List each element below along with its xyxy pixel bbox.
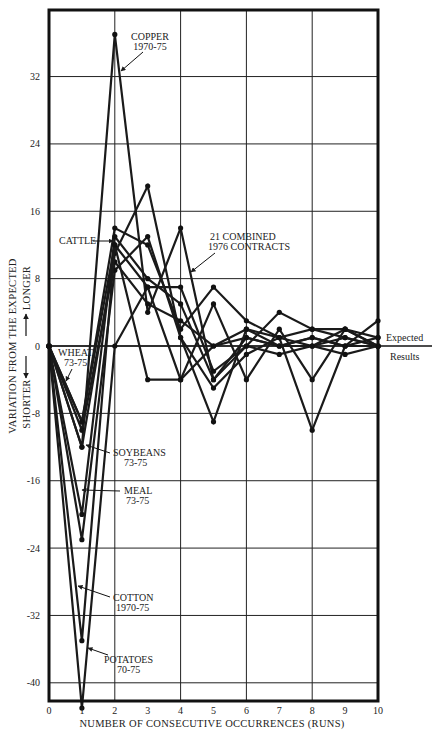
data-point — [277, 327, 282, 332]
data-point — [310, 428, 315, 433]
data-point — [178, 335, 183, 340]
data-point — [145, 234, 150, 239]
data-point — [211, 284, 216, 289]
data-point — [79, 638, 84, 643]
data-point — [310, 335, 315, 340]
annotation-cattle: CATTLE — [59, 235, 113, 246]
y-axis-direction-label: SHORTER LONGER — [21, 266, 32, 429]
data-point — [277, 352, 282, 357]
data-point — [79, 537, 84, 542]
data-point — [211, 419, 216, 424]
y-tick-label: -16 — [27, 475, 40, 486]
x-axis-label: NUMBER OF CONSECUTIVE OCCURRENCES (RUNS) — [79, 718, 344, 730]
data-series — [46, 32, 380, 711]
data-point — [145, 183, 150, 188]
data-point — [112, 226, 117, 231]
x-tick-label: 0 — [47, 705, 52, 716]
y-tick-label: 32 — [30, 71, 40, 82]
data-point — [112, 32, 117, 37]
data-point — [145, 377, 150, 382]
x-tick-label: 6 — [244, 705, 249, 716]
x-tick-label: 8 — [310, 705, 315, 716]
y-tick-label: 0 — [35, 341, 40, 352]
data-point — [310, 377, 315, 382]
x-axis-ticks: 012345678910 — [47, 705, 384, 716]
data-point — [244, 327, 249, 332]
data-point — [244, 343, 249, 348]
data-point — [343, 343, 348, 348]
annotation-cotton: COTTON 1970-75 — [78, 586, 153, 613]
x-tick-label: 2 — [112, 705, 117, 716]
x-tick-label: 1 — [79, 705, 84, 716]
svg-text:1970-75: 1970-75 — [116, 602, 149, 613]
data-point — [211, 369, 216, 374]
svg-text:1976 CONTRACTS: 1976 CONTRACTS — [208, 241, 290, 252]
data-point — [244, 352, 249, 357]
y-tick-label: 24 — [30, 138, 40, 149]
svg-text:CATTLE: CATTLE — [59, 235, 96, 246]
data-point — [211, 386, 216, 391]
data-point — [244, 377, 249, 382]
data-point — [79, 419, 84, 424]
svg-text:70-75: 70-75 — [117, 664, 140, 675]
expected-label: Expected — [386, 332, 423, 343]
data-point — [178, 318, 183, 323]
data-point — [112, 242, 117, 247]
data-point — [112, 343, 117, 348]
data-point — [178, 226, 183, 231]
data-point — [211, 343, 216, 348]
x-tick-label: 10 — [373, 705, 383, 716]
data-point — [145, 301, 150, 306]
x-tick-label: 4 — [178, 705, 183, 716]
data-point — [343, 352, 348, 357]
y-tick-label: -8 — [32, 408, 40, 419]
data-point — [211, 377, 216, 382]
y-tick-label: -32 — [27, 610, 40, 621]
x-tick-label: 5 — [211, 705, 216, 716]
data-point — [343, 335, 348, 340]
svg-text:73-75: 73-75 — [124, 457, 147, 468]
data-point — [277, 335, 282, 340]
y-tick-label: 8 — [35, 273, 40, 284]
data-point — [79, 444, 84, 449]
data-point — [343, 327, 348, 332]
data-point — [310, 327, 315, 332]
svg-text:73-75: 73-75 — [64, 357, 87, 368]
y-tick-label: -40 — [27, 677, 40, 688]
svg-text:1970-75: 1970-75 — [133, 41, 166, 52]
x-tick-label: 9 — [343, 705, 348, 716]
results-label: Results — [390, 351, 420, 362]
svg-text:73-75: 73-75 — [126, 495, 149, 506]
series-line — [46, 183, 380, 449]
data-point — [178, 284, 183, 289]
runs-variation-chart: 32241680-8-16-24-32-40 012345678910 NUMB… — [0, 0, 436, 735]
annotation-potatoes: POTATOES 70-75 — [88, 648, 153, 675]
data-point — [178, 301, 183, 306]
data-point — [145, 276, 150, 281]
x-tick-label: 3 — [145, 705, 150, 716]
data-point — [211, 301, 216, 306]
data-point — [244, 318, 249, 323]
annotation-copper: COPPER 1970-75 — [121, 31, 169, 71]
data-point — [178, 377, 183, 382]
x-tick-label: 7 — [277, 705, 282, 716]
data-point — [112, 234, 117, 239]
y-axis-label: VARIATION FROM THE EXPECTED — [7, 258, 18, 434]
longer-label: LONGER — [21, 266, 32, 310]
data-point — [310, 343, 315, 348]
y-tick-label: 16 — [30, 206, 40, 217]
series-line — [46, 242, 380, 643]
data-point — [277, 310, 282, 315]
svg-text:VARIATION FROM THE EXPECTED: VARIATION FROM THE EXPECTED — [7, 258, 18, 434]
shorter-label: SHORTER — [21, 379, 32, 428]
y-tick-label: -24 — [27, 543, 40, 554]
data-point — [145, 310, 150, 315]
annotation-combined: 21 COMBINED 1976 CONTRACTS — [191, 231, 290, 272]
data-point — [145, 284, 150, 289]
